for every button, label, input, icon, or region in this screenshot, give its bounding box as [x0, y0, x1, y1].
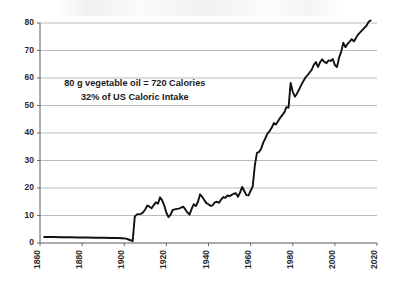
x-tick-label-1920: 1920	[158, 250, 168, 269]
y-tick-label-0: 0	[29, 237, 34, 247]
line-chart: 01020304050607080 1860188019001920194019…	[0, 0, 395, 282]
y-tick-label-50: 50	[25, 100, 35, 110]
annotation-text-0: 80 g vegetable oil = 720 Calories	[64, 78, 205, 88]
series-line-0	[44, 21, 370, 242]
x-tick-label-1940: 1940	[201, 250, 211, 269]
x-tick-label-2000: 2000	[327, 250, 337, 269]
y-tick-label-70: 70	[25, 45, 35, 55]
y-tick-label-60: 60	[25, 72, 35, 82]
x-tick-label-1980: 1980	[285, 250, 295, 269]
x-tick-label-1960: 1960	[243, 250, 253, 269]
x-tick-label-1900: 1900	[116, 250, 126, 269]
chart-container: 01020304050607080 1860188019001920194019…	[0, 0, 395, 282]
y-tick-label-10: 10	[25, 210, 35, 220]
chart-annotations: 80 g vegetable oil = 720 Calories32% of …	[64, 78, 205, 102]
y-tick-label-20: 20	[25, 182, 35, 192]
x-tick-label-1880: 1880	[74, 250, 84, 269]
y-tick-label-30: 30	[25, 155, 35, 165]
x-axis-tick-labels: 186018801900192019401960198020002020	[32, 250, 379, 269]
y-tick-label-40: 40	[25, 127, 35, 137]
gridlines	[40, 23, 377, 216]
y-tick-label-80: 80	[25, 17, 35, 27]
y-axis-tick-labels: 01020304050607080	[25, 17, 35, 247]
x-tick-label-2020: 2020	[369, 250, 379, 269]
x-tick-label-1860: 1860	[32, 250, 42, 269]
axis-ticks	[37, 23, 377, 246]
data-series	[44, 21, 370, 242]
annotation-text-1: 32% of US Caloric Intake	[81, 92, 189, 102]
